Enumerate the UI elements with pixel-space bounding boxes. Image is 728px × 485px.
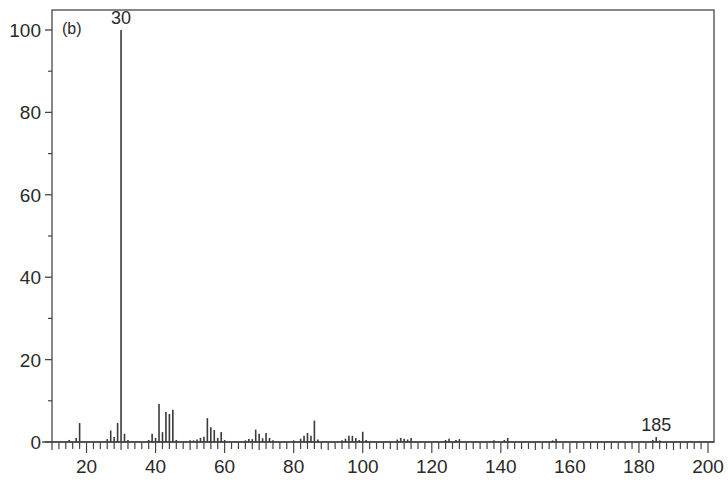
x-tick-label: 120	[416, 456, 448, 477]
peak-annotations: 30185	[111, 8, 671, 435]
y-tick-label: 80	[20, 102, 41, 123]
plot-frame	[52, 10, 714, 442]
x-axis: 20406080100120140160180200	[42, 442, 724, 477]
y-tick-label: 40	[20, 267, 41, 288]
peak-annotation: 185	[641, 415, 671, 435]
x-tick-label: 200	[692, 456, 724, 477]
mass-spectrum-chart: 020406080100 20406080100120140160180200 …	[0, 0, 728, 485]
y-tick-label: 100	[9, 20, 41, 41]
peak-series	[69, 30, 659, 442]
peak-annotation: 30	[111, 8, 131, 28]
y-axis: 020406080100	[9, 20, 52, 453]
x-tick-label: 60	[214, 456, 235, 477]
panel-label: (b)	[62, 20, 82, 37]
y-tick-label: 0	[30, 432, 41, 453]
x-tick-label: 180	[623, 456, 655, 477]
x-tick-label: 100	[347, 456, 379, 477]
x-tick-label: 160	[554, 456, 586, 477]
y-tick-label: 60	[20, 185, 41, 206]
x-tick-label: 140	[485, 456, 517, 477]
x-tick-label: 20	[76, 456, 97, 477]
x-tick-label: 80	[283, 456, 304, 477]
x-tick-label: 40	[145, 456, 166, 477]
y-tick-label: 20	[20, 350, 41, 371]
